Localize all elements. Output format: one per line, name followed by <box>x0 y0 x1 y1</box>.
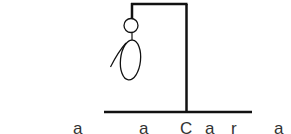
body <box>118 39 142 81</box>
letter-slot: a <box>73 119 82 134</box>
left-arm <box>111 43 127 67</box>
letter-slot: C <box>180 119 192 134</box>
letter-slot: a <box>139 119 148 134</box>
word-letters: a a C a r a <box>0 119 291 134</box>
head <box>124 19 138 33</box>
hangman-drawing <box>0 0 291 134</box>
letter-slot: a <box>274 119 283 134</box>
letter-slot: r <box>231 119 237 134</box>
letter-slot: a <box>205 119 214 134</box>
